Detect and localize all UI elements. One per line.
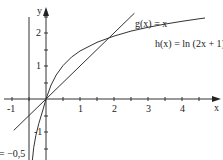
h-function-label: h(x) = ln (2x + 1) xyxy=(155,39,223,49)
x-axis-label: x xyxy=(214,103,219,113)
x-tick-label-neg1: -1 xyxy=(7,104,15,114)
x-tick-label-3: 3 xyxy=(146,104,151,114)
y-axis-label: y xyxy=(37,6,42,16)
x-tick-label-2: 2 xyxy=(112,104,117,114)
x-tick-label-4: 4 xyxy=(180,104,185,114)
y-tick-label-1: 1 xyxy=(36,61,41,71)
y-axis-arrow-icon xyxy=(43,7,49,16)
g-function-label: g(x) = x xyxy=(135,19,167,29)
x-tick-label-1: 1 xyxy=(78,104,83,114)
y-tick-label-neg1: -1 xyxy=(34,127,42,137)
asymptote-label: = −0,5 xyxy=(0,149,25,159)
y-tick-label-2: 2 xyxy=(36,28,41,38)
